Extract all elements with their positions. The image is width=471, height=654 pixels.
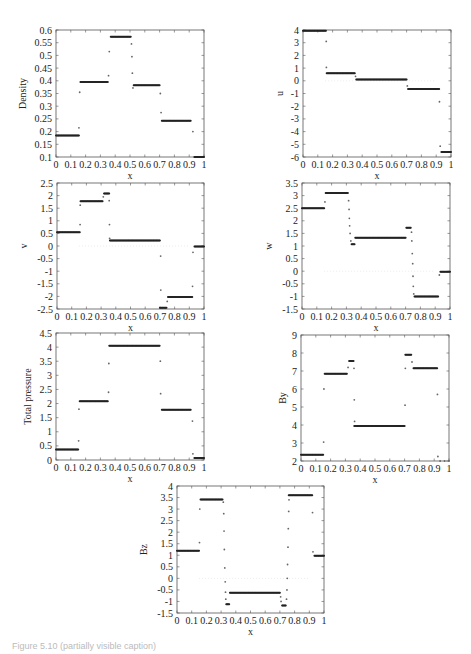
x-tick-label: 0.5 <box>244 615 257 626</box>
y-tick-label: 1.5 <box>161 538 174 549</box>
x-tick-label: 0 <box>175 615 180 626</box>
figure-caption: Figure 5.10 (partially visible caption) <box>12 641 156 651</box>
y-tick-label: 0.5 <box>161 561 174 572</box>
y-tick-label: -0.5 <box>157 584 173 595</box>
y-tick-label: 3 <box>168 504 173 515</box>
y-axis-label: Bz <box>138 543 149 555</box>
data-series <box>176 494 325 606</box>
x-tick-label: 1 <box>322 615 327 626</box>
x-tick-label: 0.7 <box>274 615 287 626</box>
y-tick-label: -1 <box>165 596 173 607</box>
plot-svg: 00.10.20.30.40.50.60.70.80.91-1.5-1-0.50… <box>0 0 471 654</box>
y-tick-label: 3.5 <box>161 492 174 503</box>
x-tick-label: 0.2 <box>200 615 213 626</box>
x-axis-label: x <box>248 626 253 637</box>
plot-frame <box>177 486 324 613</box>
x-tick-label: 0.9 <box>303 615 316 626</box>
x-tick-label: 0.6 <box>259 615 272 626</box>
x-tick-label: 0.3 <box>215 615 228 626</box>
y-tick-label: 0 <box>168 573 173 584</box>
x-tick-label: 0.1 <box>185 615 198 626</box>
y-tick-label: 2.5 <box>161 515 174 526</box>
y-tick-label: 1 <box>168 550 173 561</box>
y-tick-label: -1.5 <box>157 608 173 619</box>
y-tick-label: 4 <box>168 481 173 492</box>
y-tick-label: 2 <box>168 527 173 538</box>
x-tick-label: 0.8 <box>288 615 301 626</box>
x-tick-label: 0.4 <box>230 615 243 626</box>
